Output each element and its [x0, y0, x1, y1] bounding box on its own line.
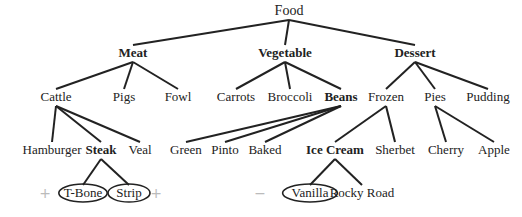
edge-steak-strip: [101, 159, 129, 185]
node-tbone: T-Bone: [64, 185, 103, 200]
node-vanilla: Vanilla: [292, 185, 329, 200]
node-veal: Veal: [128, 142, 151, 157]
node-fowl: Fowl: [165, 89, 192, 104]
edge-food-dessert: [289, 20, 415, 45]
node-green: Green: [170, 142, 202, 157]
node-pigs: Pigs: [113, 89, 135, 104]
edge-vegetable-broccoli: [285, 62, 290, 89]
node-cattle: Cattle: [40, 89, 71, 104]
plus-marker-left-icon: +: [39, 185, 51, 201]
node-hamburger: Hamburger: [23, 142, 82, 157]
edge-cattle-hamburger: [52, 106, 56, 142]
tree-diagram: ++− FoodMeatVegetableDessertCattlePigsFo…: [0, 0, 522, 217]
edge-beans-baked: [265, 106, 341, 142]
node-sherbet: Sherbet: [375, 142, 415, 157]
node-food: Food: [275, 3, 304, 18]
edge-cattle-steak: [56, 106, 101, 142]
edge-frozen-sherbet: [386, 106, 395, 142]
edge-beans-green: [186, 106, 341, 142]
edge-meat-fowl: [133, 62, 178, 89]
edge-steak-tbone: [83, 159, 101, 185]
node-cherry: Cherry: [428, 142, 464, 157]
node-strip: Strip: [116, 185, 141, 200]
edge-meat-pigs: [124, 62, 133, 89]
edge-beans-pinto: [225, 106, 341, 142]
node-pinto: Pinto: [211, 142, 238, 157]
edge-icecream-rockyroad: [335, 159, 362, 185]
node-meat: Meat: [119, 45, 148, 60]
node-pies: Pies: [424, 89, 446, 104]
node-beans: Beans: [324, 89, 357, 104]
node-vegetable: Vegetable: [258, 45, 312, 60]
edge-cattle-veal: [56, 106, 140, 142]
node-apple: Apple: [478, 142, 510, 157]
edge-vegetable-beans: [285, 62, 341, 89]
node-steak: Steak: [85, 142, 116, 157]
node-carrots: Carrots: [217, 89, 255, 104]
edge-food-vegetable: [285, 20, 289, 45]
edge-icecream-vanilla: [310, 159, 335, 185]
edge-frozen-icecream: [335, 106, 386, 142]
node-icecream: Ice Cream: [306, 142, 364, 157]
edge-vegetable-carrots: [236, 62, 285, 89]
node-pudding: Pudding: [466, 89, 509, 104]
plus-marker-right-icon: +: [150, 185, 162, 201]
node-broccoli: Broccoli: [268, 89, 313, 104]
node-baked: Baked: [248, 142, 281, 157]
node-rockyroad: Rocky Road: [330, 185, 395, 200]
node-frozen: Frozen: [368, 89, 404, 104]
node-dessert: Dessert: [394, 45, 435, 60]
edge-food-meat: [133, 20, 289, 45]
edge-meat-cattle: [56, 62, 133, 89]
edge-dessert-frozen: [386, 62, 415, 89]
minus-marker-icon: −: [254, 185, 266, 201]
